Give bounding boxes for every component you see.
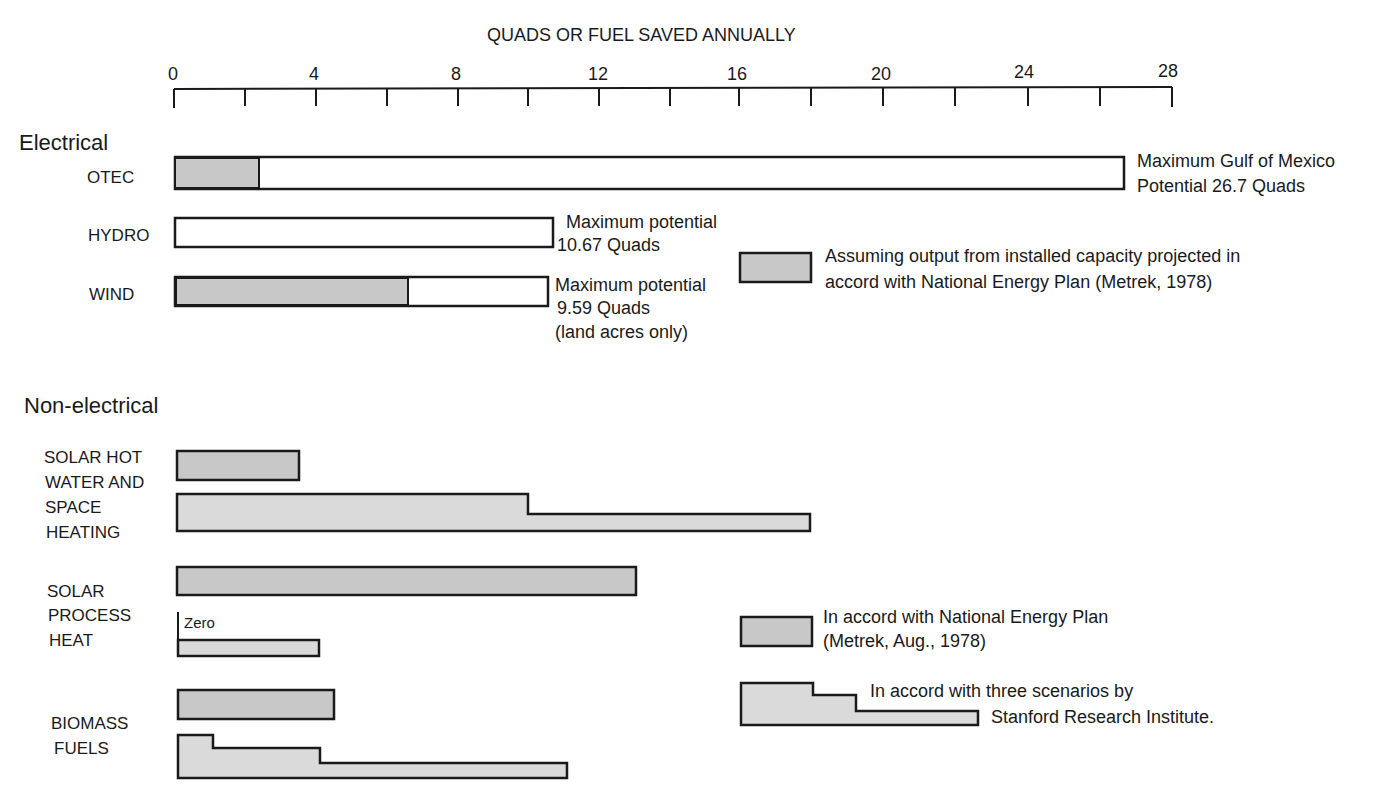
chart-graphics [0,0,1391,787]
otec-annotation-2: Potential 26.7 Quads [1137,175,1305,197]
legend-sri-text-2: Stanford Research Institute. [991,706,1214,728]
wind-annotation-2: 9.59 Quads [557,297,650,319]
bar-hydro [175,218,553,247]
label-line: SPACE [45,496,101,520]
legend-swatch-nep [741,617,812,646]
label-line: FUELS [54,737,109,761]
bar-wind [175,277,548,306]
otec-annotation-1: Maximum Gulf of Mexico [1137,150,1335,172]
label-line: HEATING [46,521,120,545]
x-axis [174,87,1172,108]
label-line: WATER AND [45,471,144,495]
hydro-annotation-2: 10.67 Quads [557,234,660,256]
hydro-annotation-1: Maximum potential [566,211,717,233]
legend-electrical-text-1: Assuming output from installed capacity … [825,245,1240,267]
label-line: HEAT [49,629,93,653]
row-label-hydro: HYDRO [88,224,149,248]
bar-solar-process-heat [177,567,636,656]
label-line: PROCESS [48,604,131,628]
label-line: SOLAR HOT [44,446,142,470]
row-label-wind: WIND [89,283,134,307]
legend-sri-text-1: In accord with three scenarios by [870,680,1133,702]
row-label-otec: OTEC [87,166,134,190]
legend-swatch-electrical [740,253,811,282]
wind-annotation-1: Maximum potential [555,274,706,296]
bar-biomass [178,690,567,778]
wind-annotation-3: (land acres only) [555,321,688,343]
bar-solar-hot-water [177,451,810,531]
zero-annotation: Zero [184,614,215,631]
label-line: SOLAR [47,580,105,604]
legend-nep-text-2: (Metrek, Aug., 1978) [823,630,986,652]
section-title-nonelectrical: Non-electrical [24,393,159,419]
label-line: BIOMASS [51,712,128,736]
legend-electrical-text-2: accord with National Energy Plan (Metrek… [825,271,1212,293]
section-title-electrical: Electrical [19,130,108,156]
legend-nep-text-1: In accord with National Energy Plan [823,606,1108,628]
bar-otec [175,157,1124,189]
